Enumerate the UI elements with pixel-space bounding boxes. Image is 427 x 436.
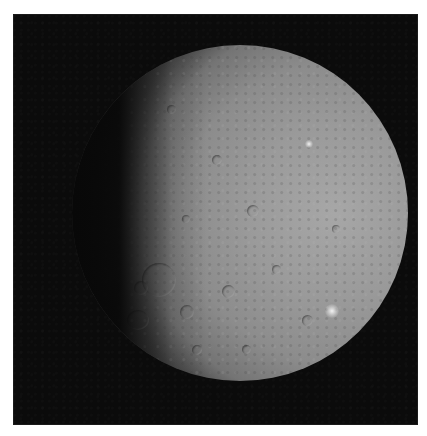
terminator-shadow	[72, 45, 408, 381]
planet-globe	[72, 45, 408, 381]
photo-frame	[13, 14, 418, 425]
